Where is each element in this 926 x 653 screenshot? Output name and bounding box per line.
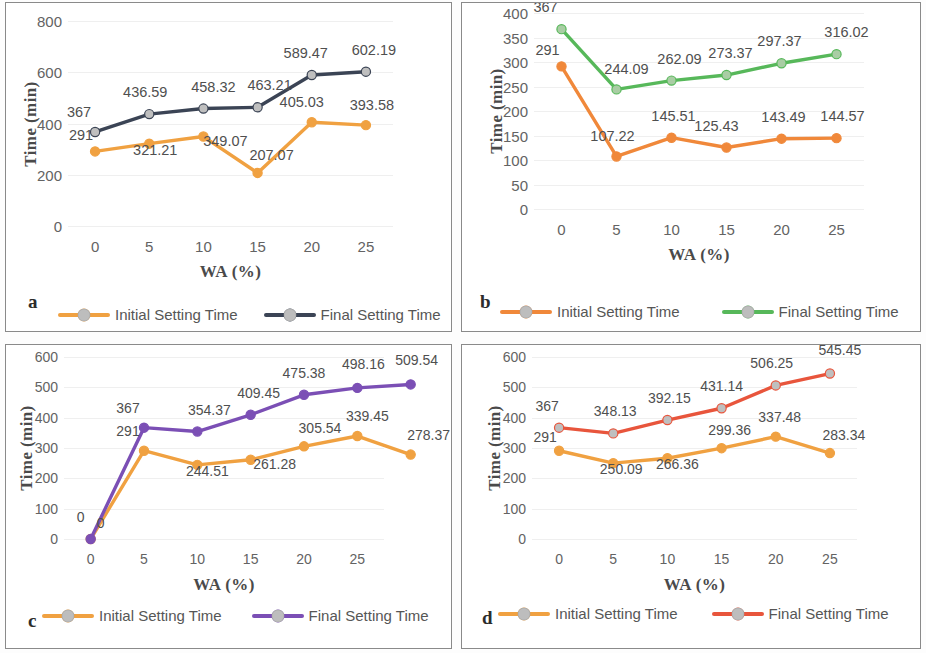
data-label: 337.48: [758, 409, 801, 425]
legend-marker: [731, 607, 744, 620]
legend-entry[interactable]: Initial Setting Time: [42, 607, 222, 624]
data-label: 305.54: [299, 420, 342, 436]
data-label: 291: [533, 429, 556, 445]
data-point: [771, 432, 780, 441]
data-point: [253, 168, 262, 177]
data-point: [771, 381, 780, 390]
legend-entry[interactable]: Final Setting Time: [712, 605, 889, 622]
legend-entry[interactable]: Final Setting Time: [722, 303, 899, 320]
data-point: [361, 121, 370, 130]
data-point: [667, 133, 676, 142]
data-label: 348.13: [594, 403, 637, 419]
data-label: 145.51: [651, 108, 695, 124]
data-label: 475.38: [283, 365, 326, 381]
panel-letter: b: [480, 291, 491, 313]
legend-marker: [520, 305, 533, 318]
data-point: [554, 446, 563, 455]
panel-c-inner: 01002003004005006000510152025Time (min)W…: [6, 345, 451, 648]
data-label: 436.59: [123, 84, 167, 100]
data-label: 266.36: [656, 456, 699, 472]
data-point: [557, 62, 566, 71]
data-point: [299, 442, 308, 451]
data-point: [557, 25, 566, 34]
data-point: [609, 429, 618, 438]
data-point: [717, 404, 726, 413]
data-point: [667, 76, 676, 85]
data-label: 207.07: [249, 147, 293, 163]
data-point: [612, 152, 621, 161]
data-label: 321.21: [133, 142, 177, 158]
legend-label: Initial Setting Time: [112, 306, 238, 323]
chart-panel-b: 0501001502002503003504000510152025Time (…: [461, 2, 921, 332]
data-point: [139, 423, 148, 432]
panel-letter: a: [28, 291, 38, 313]
legend-swatch-final: [712, 612, 764, 616]
data-label: 291: [535, 42, 559, 58]
data-label: 367: [535, 398, 558, 414]
panel-a-inner: 02004006008000510152025Time (min)WA (%)2…: [6, 3, 451, 331]
panel-b-inner: 0501001502002503003504000510152025Time (…: [462, 3, 920, 331]
legend-swatch-final: [264, 313, 316, 317]
chart-legend: Initial Setting TimeFinal Setting Time: [42, 607, 429, 624]
data-label: 250.09: [600, 461, 643, 477]
data-label: 409.45: [237, 385, 280, 401]
data-point: [307, 70, 316, 79]
data-label: 297.37: [757, 33, 801, 49]
legend-entry[interactable]: Final Setting Time: [264, 306, 441, 323]
data-point: [825, 448, 834, 457]
data-point: [832, 134, 841, 143]
data-point: [406, 380, 415, 389]
data-label: 354.37: [188, 402, 231, 418]
legend-entry[interactable]: Initial Setting Time: [58, 306, 238, 323]
data-label: 393.58: [350, 97, 394, 113]
data-label: 498.16: [342, 356, 385, 372]
legend-entry[interactable]: Final Setting Time: [252, 607, 429, 624]
series-plot: [6, 345, 451, 648]
data-label: 339.45: [346, 408, 389, 424]
data-point: [353, 383, 362, 392]
legend-entry[interactable]: Initial Setting Time: [500, 303, 680, 320]
legend-label: Final Setting Time: [776, 303, 899, 320]
data-label: 431.14: [700, 378, 743, 394]
panel-d-inner: 01002003004005006000510152025Time (min)W…: [462, 345, 920, 648]
data-label: 291: [116, 423, 139, 439]
data-point: [193, 427, 202, 436]
panel-letter: d: [482, 607, 493, 629]
data-label: 589.47: [284, 45, 328, 61]
chart-panel-c: 01002003004005006000510152025Time (min)W…: [5, 344, 452, 649]
data-label: 125.43: [694, 118, 738, 134]
data-label: 244.09: [604, 61, 648, 77]
data-label: 392.15: [648, 390, 691, 406]
legend-label: Initial Setting Time: [554, 303, 680, 320]
data-point: [777, 59, 786, 68]
legend-swatch-initial: [58, 313, 110, 317]
data-label: 458.32: [191, 79, 235, 95]
data-label: 0: [97, 515, 105, 531]
data-point: [299, 390, 308, 399]
data-point: [612, 85, 621, 94]
data-point: [199, 104, 208, 113]
data-label: 144.57: [820, 108, 864, 124]
legend-entry[interactable]: Initial Setting Time: [498, 605, 678, 622]
data-label: 299.36: [708, 422, 751, 438]
legend-label: Final Setting Time: [318, 306, 441, 323]
data-label: 262.09: [657, 51, 701, 67]
figure-grid: 02004006008000510152025Time (min)WA (%)2…: [0, 0, 926, 653]
data-label: 367: [116, 400, 139, 416]
data-label: 283.34: [822, 427, 865, 443]
data-point: [717, 444, 726, 453]
data-point: [246, 410, 255, 419]
data-label: 273.37: [708, 45, 752, 61]
data-label: 506.25: [750, 355, 793, 371]
data-point: [722, 143, 731, 152]
data-point: [353, 431, 362, 440]
chart-legend: Initial Setting TimeFinal Setting Time: [498, 605, 889, 622]
legend-swatch-final: [252, 614, 304, 618]
data-point: [825, 369, 834, 378]
legend-label: Initial Setting Time: [96, 607, 222, 624]
legend-swatch-initial: [498, 612, 550, 616]
data-point: [663, 415, 672, 424]
data-label: 0: [77, 509, 85, 525]
data-label: 602.19: [352, 42, 396, 58]
data-label: 107.22: [590, 128, 634, 144]
